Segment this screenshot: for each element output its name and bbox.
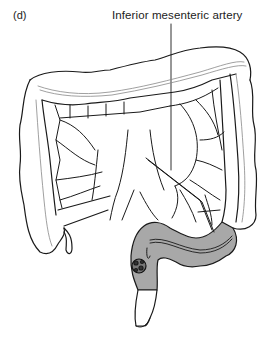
appendix	[64, 228, 72, 254]
ascending-colon	[19, 80, 64, 254]
descending-colon	[233, 80, 257, 229]
rectum	[135, 290, 157, 326]
tumour-icon	[132, 259, 146, 273]
main-vessels	[92, 130, 214, 232]
colon-illustration	[0, 0, 275, 344]
transverse-colon	[30, 47, 251, 80]
